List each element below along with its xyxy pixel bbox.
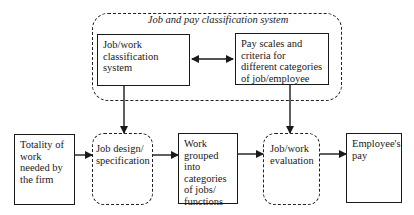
connector-arrows xyxy=(0,0,414,215)
